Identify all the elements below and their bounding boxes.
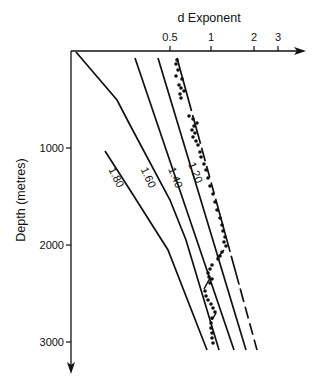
curve-label-1-40: 1.40	[166, 165, 185, 189]
normal-trend-dashed	[177, 58, 257, 350]
curve-label-1-60: 1.60	[139, 165, 159, 189]
x-axis-title: d Exponent	[177, 11, 241, 25]
x-tick-0-5: 0.5	[162, 31, 177, 43]
curve-1-40	[135, 58, 234, 350]
x-tick-3: 3	[275, 31, 281, 43]
y-axis-title: Depth (metres)	[14, 158, 28, 241]
curve-label-1-80: 1.80	[106, 165, 126, 190]
y-tick-3000: 3000	[40, 336, 64, 348]
overlay-curves	[76, 52, 257, 350]
x-tick-2: 2	[251, 31, 257, 43]
x-ticks	[170, 46, 278, 51]
y-ticks	[66, 148, 71, 342]
y-tick-1000: 1000	[40, 142, 64, 154]
d-exponent-chart: 0.5 1 2 3 d Exponent 1000 2000 3000 Dept…	[0, 0, 317, 380]
x-tick-1: 1	[208, 31, 214, 43]
y-tick-2000: 2000	[40, 239, 64, 251]
